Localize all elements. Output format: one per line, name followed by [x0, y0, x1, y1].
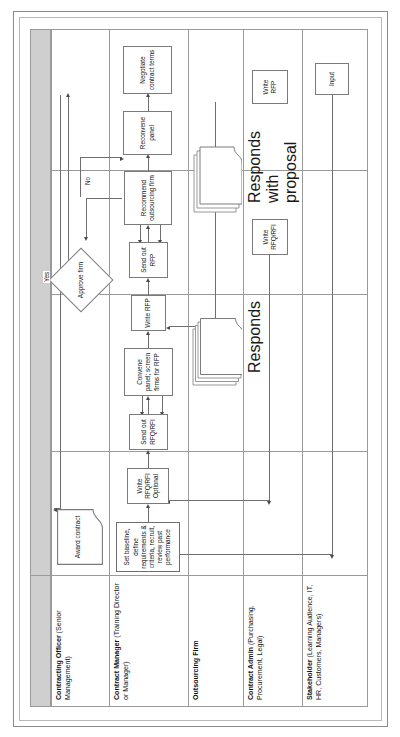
arrow-head	[146, 225, 150, 229]
connector	[80, 157, 81, 197]
arrow-head	[267, 501, 271, 505]
lane-title-contract-admin: Contract Admin (Purchasing, Procurement,…	[243, 576, 302, 707]
node-label: Convene panel; screen firms for RFP	[136, 351, 161, 393]
lane-title-text: Stakeholder	[306, 659, 314, 700]
edge-label-no: No	[84, 176, 91, 186]
lane-title-text: Contract Admin	[247, 647, 255, 700]
node-label: Reconvene panel	[139, 114, 155, 152]
node-input[interactable]: Input	[315, 63, 349, 95]
connector	[172, 554, 333, 555]
connector	[148, 453, 149, 468]
node-label: Responds	[246, 309, 270, 387]
node-label: Write RFP	[144, 298, 152, 327]
arrow-head	[146, 504, 150, 508]
document-stack-icon	[192, 137, 242, 215]
lane-grid-line	[30, 29, 368, 30]
connector	[170, 500, 270, 501]
node-write-rfq-rfi-optional[interactable]: Write RFQ/RFI Optional	[127, 468, 169, 504]
connector	[148, 399, 149, 414]
lane-title-outsourcing-firm: Outsourcing Firm	[188, 576, 243, 707]
arrow-head	[146, 396, 150, 400]
node-label: Responds with proposal	[246, 137, 306, 215]
node-recommend-outsourcing-firm[interactable]: Recommend outsourcing firm	[124, 171, 172, 225]
swimlane-diagram: Contracting Officer (Senior Management) …	[30, 29, 368, 707]
connector	[86, 198, 122, 199]
screenshot-page: Contracting Officer (Senior Management) …	[0, 0, 400, 737]
node-label: Write RFQ/RFI Optional	[136, 471, 161, 501]
arrow-head	[146, 331, 150, 335]
node-reconvene-panel[interactable]: Reconvene panel	[123, 111, 172, 155]
lane-title-contract-manager: Contract Manager (Training Director or M…	[109, 576, 188, 707]
connector	[148, 334, 149, 348]
node-negotiate-contract-terms[interactable]: Negotiate contract terms	[123, 46, 172, 94]
arrow-head	[120, 157, 124, 161]
arrow-head	[330, 555, 334, 559]
node-label: Set baseline, define requirements & crit…	[123, 525, 172, 569]
node-responds-with-proposal-stack[interactable]: Responds with proposal	[192, 137, 242, 215]
lane-title-stakeholder: Stakeholder (Learning Audience, IT, HR, …	[302, 576, 367, 707]
node-set-baseline[interactable]: Set baseline, define requirements & crit…	[116, 522, 180, 572]
node-label: Approve firm	[58, 257, 104, 303]
arrow-head	[66, 93, 70, 97]
connector	[148, 281, 149, 295]
lane-grid-line	[367, 29, 368, 707]
stage-grid-line	[51, 451, 367, 452]
node-label: Write RFQ/RFI	[262, 222, 278, 252]
lane-title-contracting-officer: Contracting Officer (Senior Management)	[51, 576, 109, 707]
node-responds-stack[interactable]: Responds	[192, 309, 242, 387]
node-label: Recommend outsourcing firm	[140, 174, 156, 222]
node-award-contract[interactable]: Award contract	[57, 509, 103, 565]
node-label: Negotiate contract terms	[139, 49, 155, 91]
node-send-out-rfq-rfi[interactable]: Send out RFQ/RFI	[129, 414, 168, 450]
arrow-head	[166, 326, 170, 330]
node-label: Award contract	[57, 509, 103, 565]
lane-title-text: Contract Manager	[113, 640, 121, 700]
node-write-rfp[interactable]: Write RFP	[131, 295, 166, 331]
document-stack-icon	[192, 309, 242, 387]
diagram-header-band	[30, 29, 51, 707]
node-convene-panel-screen-firms[interactable]: Convene panel; screen firms for RFP	[124, 348, 173, 396]
node-label: Write RFP	[262, 73, 278, 101]
connector	[86, 198, 87, 237]
connector	[332, 93, 333, 555]
connector	[68, 96, 69, 272]
node-label: Send out RFP	[140, 245, 156, 275]
diagram-viewport: Contracting Officer (Senior Management) …	[30, 29, 368, 707]
connector	[148, 96, 149, 111]
node-label: Send out RFQ/RFI	[140, 417, 156, 447]
node-send-out-rfp[interactable]: Send out RFP	[129, 242, 168, 278]
lane-title-text: Outsourcing Firm	[192, 640, 200, 700]
node-admin-write-rfp[interactable]: Write RFP	[252, 70, 288, 104]
node-admin-write-rfq-rfi[interactable]: Write RFQ/RFI	[252, 219, 288, 255]
edge-label-yes: Yes	[43, 271, 50, 283]
arrow-head	[146, 450, 150, 454]
arrow-head	[84, 237, 88, 241]
connector	[148, 228, 149, 242]
node-label: Input	[328, 72, 336, 86]
arrow-head	[146, 278, 150, 282]
connector	[148, 157, 149, 171]
lane-title-text: Contracting Officer	[55, 635, 63, 700]
node-approve-firm[interactable]: Approve firm	[58, 257, 104, 303]
connector	[148, 507, 149, 522]
connector	[80, 157, 122, 158]
